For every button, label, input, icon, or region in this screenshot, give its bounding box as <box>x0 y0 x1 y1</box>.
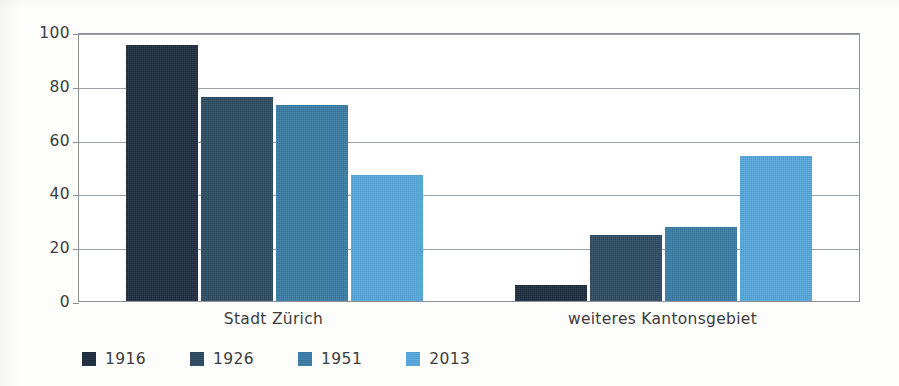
legend-item: 1926 <box>190 350 254 368</box>
legend-label: 1916 <box>105 350 146 368</box>
y-axis-tick-label: 0 <box>6 293 70 311</box>
y-axis-tick-label: 40 <box>6 185 70 203</box>
legend-item: 1916 <box>82 350 146 368</box>
bar <box>276 105 348 301</box>
legend-swatch-icon <box>406 352 420 366</box>
chart-legend: 1916192619512013 <box>82 350 514 368</box>
y-axis-tick-label: 20 <box>6 239 70 257</box>
legend-item: 2013 <box>406 350 470 368</box>
y-axis-tick-label: 100 <box>6 24 70 42</box>
bar <box>126 45 198 301</box>
legend-item: 1951 <box>298 350 362 368</box>
gridline <box>79 34 859 35</box>
x-axis-category-label: weiteres Kantonsgebiet <box>568 310 757 328</box>
y-axis-tick <box>73 303 79 304</box>
bar-chart-figure: 020406080100 Stadt Zürichweiteres Kanton… <box>0 0 899 386</box>
bar <box>665 227 737 301</box>
legend-label: 1951 <box>321 350 362 368</box>
y-axis-tick-labels: 020406080100 <box>0 33 70 302</box>
bar <box>740 156 812 301</box>
y-axis-tick <box>73 195 79 196</box>
bar <box>201 97 273 301</box>
y-axis-tick <box>73 249 79 250</box>
plot-area <box>78 33 860 302</box>
y-axis-tick <box>73 142 79 143</box>
legend-swatch-icon <box>298 352 312 366</box>
legend-swatch-icon <box>190 352 204 366</box>
bar <box>590 235 662 301</box>
bar <box>515 285 587 301</box>
y-axis-tick <box>73 34 79 35</box>
bar <box>351 175 423 301</box>
legend-swatch-icon <box>82 352 96 366</box>
x-axis-category-label: Stadt Zürich <box>224 310 323 328</box>
y-axis-tick-label: 80 <box>6 78 70 96</box>
legend-label: 2013 <box>429 350 470 368</box>
y-axis-tick <box>73 88 79 89</box>
y-axis-tick-label: 60 <box>6 132 70 150</box>
legend-label: 1926 <box>213 350 254 368</box>
